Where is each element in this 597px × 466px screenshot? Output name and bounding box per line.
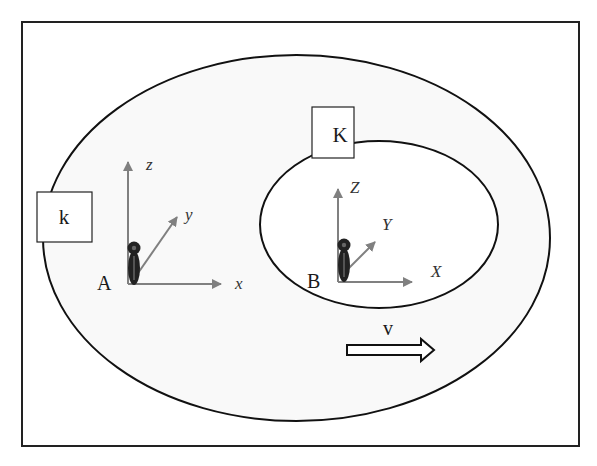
frame-k-label: k [59, 205, 70, 229]
axis-z-label: z [145, 155, 153, 174]
axis-y-label: y [183, 205, 193, 224]
velocity-label: v [383, 317, 393, 339]
observer-A-figure-icon [128, 242, 141, 286]
observer-A-label: A [97, 272, 112, 294]
observer-B-figure-icon [338, 239, 351, 283]
reference-frames-diagram: k K z y x A Z Y X B v [0, 0, 597, 466]
axis-X-label: X [430, 262, 442, 281]
frame-K-label: K [332, 123, 347, 147]
axis-x-label: x [234, 274, 243, 293]
axis-Y-label: Y [382, 215, 393, 234]
observer-B-label: B [307, 270, 320, 292]
frame-k-label-box: k [37, 192, 92, 242]
frame-K-label-box: K [312, 107, 354, 158]
axis-Z-label: Z [350, 178, 360, 197]
